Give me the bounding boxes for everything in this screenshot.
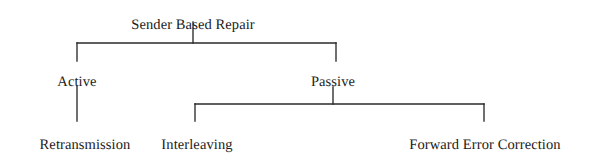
node-passive: Passive	[311, 75, 355, 90]
node-forward-error-correction: Forward Error Correction	[409, 138, 560, 153]
node-active: Active	[57, 75, 96, 90]
node-interleaving: Interleaving	[161, 138, 232, 153]
node-retransmission: Retransmission	[40, 138, 131, 153]
node-sender-based-repair: Sender Based Repair	[131, 18, 255, 33]
tree-diagram: Sender Based Repair Active Passive Retra…	[0, 0, 603, 158]
